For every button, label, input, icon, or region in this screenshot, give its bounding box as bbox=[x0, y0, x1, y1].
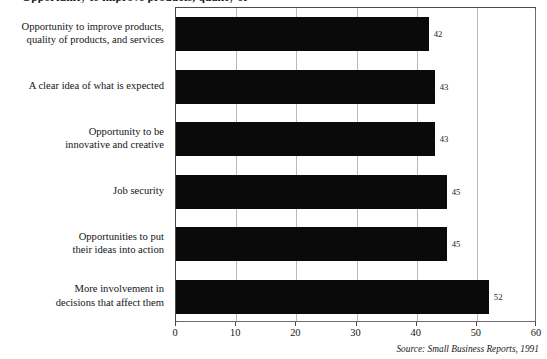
category-label-line: More involvement in bbox=[0, 282, 164, 296]
category-label: Opportunity to beinnovative and creative bbox=[0, 125, 164, 152]
gridline-x-20 bbox=[296, 8, 297, 321]
x-tick-label-0: 0 bbox=[172, 327, 177, 338]
horizontal-bar-chart-figure: Opportunity to improve products, quality… bbox=[0, 0, 547, 359]
category-label: Opportunity to improve products,quality … bbox=[0, 20, 164, 47]
category-label-line: Opportunity to improve products, bbox=[0, 20, 164, 34]
x-tick-10 bbox=[235, 322, 236, 326]
gridline-x-40 bbox=[417, 8, 418, 321]
category-label-line: Opportunity to be bbox=[0, 125, 164, 139]
category-label-line: innovative and creative bbox=[0, 138, 164, 152]
category-label-column: Opportunity to improve products,quality … bbox=[0, 7, 170, 322]
x-tick-60 bbox=[535, 322, 536, 326]
x-axis-tick-labels: 0102030405060 bbox=[175, 327, 536, 343]
x-tick-label-50: 50 bbox=[471, 327, 481, 338]
x-tick-label-40: 40 bbox=[410, 327, 420, 338]
bar bbox=[176, 227, 447, 261]
category-label-line: Job security bbox=[0, 184, 164, 198]
category-label: A clear idea of what is expected bbox=[0, 79, 164, 93]
source-note: Source: Small Business Reports, 1991 bbox=[396, 344, 539, 354]
bar-value-label: 45 bbox=[452, 240, 461, 249]
chart-title-cropped: Opportunity to improve products, quality… bbox=[22, 0, 322, 3]
gridline-x-30 bbox=[357, 8, 358, 321]
x-tick-20 bbox=[295, 322, 296, 326]
gridline-x-50 bbox=[477, 8, 478, 321]
x-tick-30 bbox=[356, 322, 357, 326]
x-tick-40 bbox=[416, 322, 417, 326]
x-tick-label-60: 60 bbox=[531, 327, 541, 338]
category-label: Job security bbox=[0, 184, 164, 198]
category-label-line: quality of products, and services bbox=[0, 33, 164, 47]
bar bbox=[176, 17, 429, 51]
x-tick-label-30: 30 bbox=[350, 327, 360, 338]
bar-value-label: 43 bbox=[440, 135, 449, 144]
category-label-line: decisions that affect them bbox=[0, 296, 164, 310]
gridline-x-10 bbox=[236, 8, 237, 321]
bar-value-label: 43 bbox=[440, 83, 449, 92]
bar-value-label: 42 bbox=[434, 30, 443, 39]
plot-area: 424343454552 bbox=[175, 7, 536, 322]
category-label-line: A clear idea of what is expected bbox=[0, 79, 164, 93]
bar bbox=[176, 280, 489, 314]
category-label: More involvement indecisions that affect… bbox=[0, 282, 164, 309]
x-tick-50 bbox=[476, 322, 477, 326]
x-tick-label-20: 20 bbox=[290, 327, 300, 338]
x-tick-0 bbox=[175, 322, 176, 326]
bar-value-label: 52 bbox=[494, 293, 503, 302]
bar bbox=[176, 70, 435, 104]
x-tick-label-10: 10 bbox=[230, 327, 240, 338]
bar bbox=[176, 175, 447, 209]
bar-value-label: 45 bbox=[452, 188, 461, 197]
category-label: Opportunities to puttheir ideas into act… bbox=[0, 230, 164, 257]
bar bbox=[176, 122, 435, 156]
category-label-line: their ideas into action bbox=[0, 243, 164, 257]
category-label-line: Opportunities to put bbox=[0, 230, 164, 244]
